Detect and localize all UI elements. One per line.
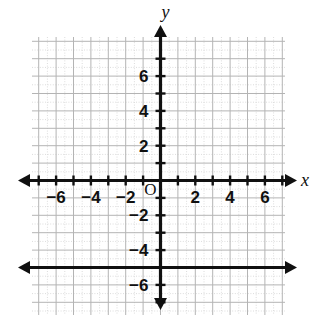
y-axis-arrow-up (154, 25, 167, 37)
x-axis-label-neg4: −4 (81, 188, 101, 207)
x-axis-label-neg2: −2 (116, 188, 135, 207)
x-axis-label-neg6: −6 (46, 188, 65, 207)
origin-label: O (144, 180, 156, 199)
y-axis-arrow-down (154, 298, 167, 310)
plotted-line-arrow-right (285, 261, 297, 274)
x-axis-label-pos4: 4 (225, 188, 235, 207)
y-axis-label-pos2: 2 (139, 137, 148, 156)
y-axis-label-neg2: −2 (129, 206, 148, 225)
x-axis-name: x (300, 170, 309, 190)
y-axis-label-neg4: −4 (129, 241, 149, 260)
x-axis-arrow-right (285, 174, 297, 187)
y-axis-label-neg6: −6 (129, 276, 148, 295)
coordinate-plane-svg: −6−4−2246642−2−4−6Oxy (0, 0, 318, 319)
x-axis-label-pos6: 6 (260, 188, 269, 207)
y-axis-label-pos6: 6 (139, 67, 148, 86)
y-axis-name: y (160, 2, 170, 22)
x-axis-label-pos2: 2 (191, 188, 200, 207)
y-axis-label-pos4: 4 (139, 102, 149, 121)
plotted-line-arrow-left (18, 261, 30, 274)
coordinate-plane-figure: −6−4−2246642−2−4−6Oxy (0, 0, 318, 319)
x-axis-arrow-left (18, 174, 30, 187)
